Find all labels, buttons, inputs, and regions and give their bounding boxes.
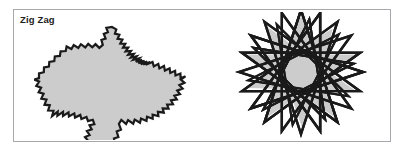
overlapping-star-polygon-figure xyxy=(212,12,390,142)
figure-panel: Zig Zag xyxy=(13,9,391,142)
zigzag-star-path xyxy=(34,27,185,140)
zigzag-star-shape xyxy=(34,27,185,140)
figure-root: Zig Zag xyxy=(0,0,405,151)
zigzag-star-figure xyxy=(34,22,190,140)
